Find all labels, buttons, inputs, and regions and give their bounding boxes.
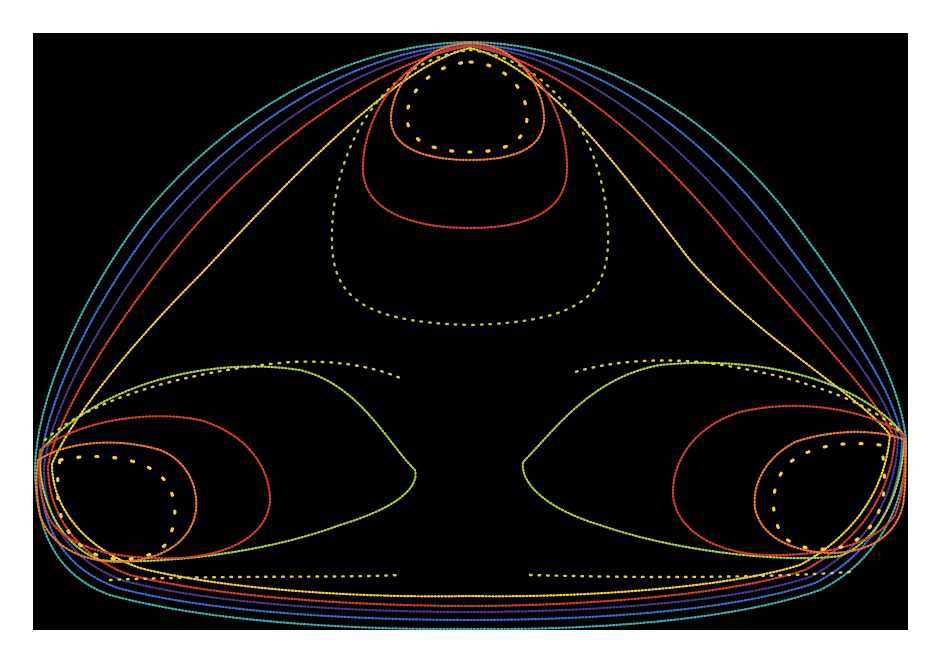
right-island-green	[523, 363, 904, 558]
top-island-red	[363, 46, 567, 228]
right-island-red	[673, 406, 905, 555]
right-island-inner-dots	[774, 444, 885, 550]
figure: Poincare-section style scatter of dotted…	[0, 0, 941, 669]
orbit-plot	[0, 0, 941, 669]
red-envelope	[48, 46, 895, 606]
purple-envelope	[44, 45, 898, 612]
top-island-orange	[391, 43, 544, 160]
outer-boundary	[35, 42, 906, 629]
yellow-separatrix	[52, 48, 890, 596]
left-island-green	[40, 367, 416, 562]
top-island-green	[332, 50, 608, 325]
blue-envelope	[40, 44, 902, 620]
top-island-inner-dots	[407, 62, 527, 152]
right-island-outer-dots	[575, 360, 898, 430]
